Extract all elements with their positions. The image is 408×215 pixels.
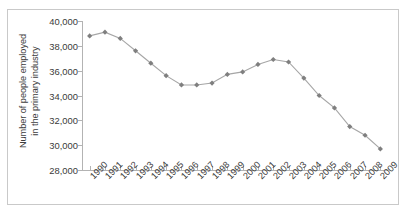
- data-point-marker: [225, 72, 230, 77]
- y-axis-tick-mark: [78, 96, 82, 97]
- y-axis-tick-mark: [78, 170, 82, 171]
- series-line: [90, 32, 381, 149]
- data-point-marker: [378, 146, 383, 151]
- y-axis-title-line-1: Number of people employed: [18, 11, 30, 171]
- y-axis-tick-mark: [78, 145, 82, 146]
- series-markers: [87, 30, 383, 152]
- y-axis-tick-label: 32,000: [34, 115, 78, 126]
- data-point-marker: [332, 105, 337, 110]
- data-point-marker: [317, 93, 322, 98]
- y-axis-tick-mark: [78, 21, 82, 22]
- y-axis-tick-label: 34,000: [34, 90, 78, 101]
- data-point-marker: [255, 62, 260, 67]
- y-axis-tick-mark: [78, 71, 82, 72]
- data-point-marker: [194, 82, 199, 87]
- data-point-marker: [271, 57, 276, 62]
- data-point-marker: [87, 33, 92, 38]
- data-point-marker: [133, 48, 138, 53]
- y-axis-line: [82, 21, 83, 171]
- y-axis-tick-mark: [78, 120, 82, 121]
- y-axis-tick-label: 36,000: [34, 65, 78, 76]
- line-chart: Number of people employed in the primary…: [0, 0, 408, 215]
- y-axis-tick-label: 38,000: [34, 40, 78, 51]
- y-axis-tick-label: 30,000: [34, 140, 78, 151]
- data-point-marker: [164, 73, 169, 78]
- y-axis-tick-mark: [78, 46, 82, 47]
- data-point-marker: [102, 30, 107, 35]
- y-axis-tick-label: 40,000: [34, 16, 78, 27]
- data-point-marker: [240, 69, 245, 74]
- data-point-marker: [347, 124, 352, 129]
- data-point-marker: [209, 80, 214, 85]
- data-point-marker: [301, 76, 306, 81]
- x-axis-tick-mark: [90, 166, 91, 170]
- data-point-marker: [362, 133, 367, 138]
- y-axis-tick-labels: 40,00038,00036,00034,00032,00030,00028,0…: [32, 0, 78, 215]
- data-point-marker: [179, 82, 184, 87]
- y-axis-tick-label: 28,000: [34, 165, 78, 176]
- data-point-marker: [148, 61, 153, 66]
- data-point-marker: [118, 36, 123, 41]
- data-point-marker: [286, 59, 291, 64]
